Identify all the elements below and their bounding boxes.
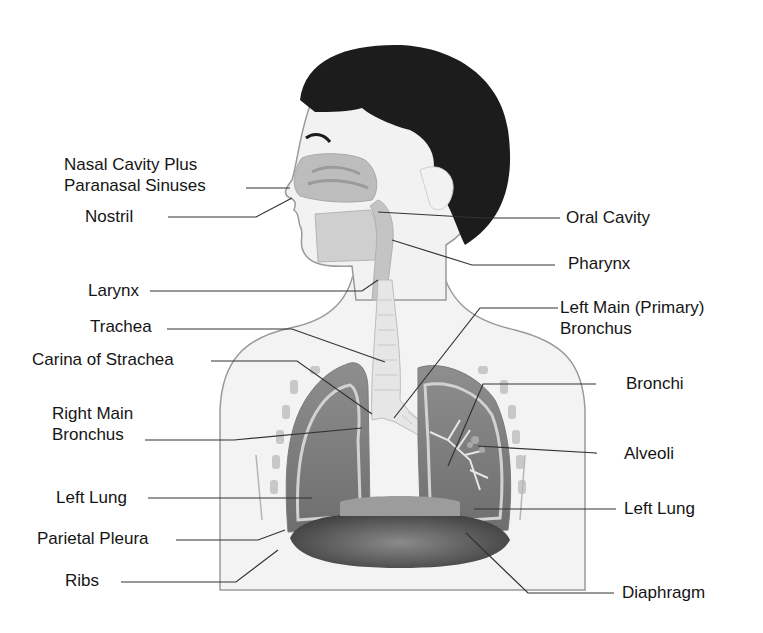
label-bronchi: Bronchi <box>626 373 684 394</box>
label-left-lung-right: Left Lung <box>624 498 695 519</box>
oral-cavity-shape <box>315 210 378 262</box>
label-right-main-bronchus: Right Main Bronchus <box>52 403 133 445</box>
label-oral-cavity: Oral Cavity <box>566 207 650 228</box>
label-larynx: Larynx <box>88 280 139 301</box>
diaphragm-shape <box>290 512 510 568</box>
label-carina-of-trachea: Carina of Strachea <box>32 349 174 370</box>
label-nostril: Nostril <box>85 206 133 227</box>
label-diaphragm: Diaphragm <box>622 582 705 603</box>
label-left-main-bronchus: Left Main (Primary) Bronchus <box>560 297 705 339</box>
label-left-lung-left: Left Lung <box>56 487 127 508</box>
label-nasal-cavity: Nasal Cavity Plus Paranasal Sinuses <box>64 154 206 196</box>
label-trachea: Trachea <box>90 316 152 337</box>
label-ribs: Ribs <box>65 570 99 591</box>
label-alveoli: Alveoli <box>624 443 674 464</box>
nasal-cavity-shape <box>294 154 377 202</box>
label-parietal-pleura: Parietal Pleura <box>37 528 149 549</box>
label-pharynx: Pharynx <box>568 253 630 274</box>
